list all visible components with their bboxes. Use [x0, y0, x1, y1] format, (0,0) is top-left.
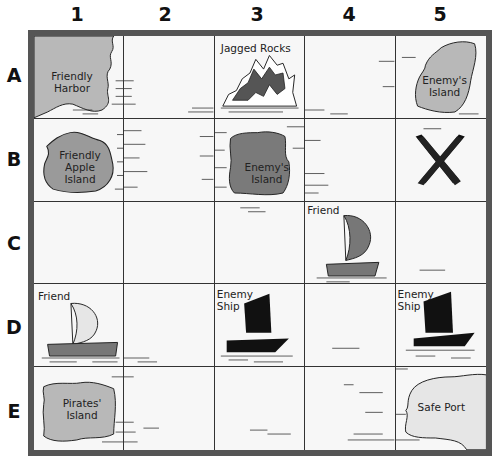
cell-a1[interactable]: Friendly Harbor — [34, 36, 124, 119]
label-line: Island — [410, 86, 480, 98]
enemy-island-icon — [215, 119, 304, 201]
label-line: Ship — [217, 300, 253, 312]
cell-e1[interactable]: Pirates' Island — [34, 367, 124, 450]
water-waves-icon — [215, 202, 304, 284]
cell-c4[interactable]: Friend — [305, 202, 395, 285]
column-label-5: 5 — [425, 3, 455, 25]
label-line: Enemy's — [410, 74, 480, 86]
cell-b5[interactable]: X — [396, 119, 486, 202]
cell-d4[interactable] — [305, 284, 395, 367]
map-grid: Friendly Harbor Jagged Rocks — [34, 36, 486, 450]
label-line: Island — [52, 409, 112, 421]
water-waves-icon — [305, 119, 394, 201]
friend-ship-label: Friend — [307, 204, 339, 216]
label-line: Island — [239, 173, 295, 185]
label-line: Harbor — [40, 82, 104, 94]
cell-c1[interactable] — [34, 202, 124, 285]
cell-c3[interactable] — [215, 202, 305, 285]
row-label-a: A — [4, 64, 24, 86]
jagged-rocks-label: Jagged Rocks — [221, 42, 291, 54]
cell-b1[interactable]: Friendly Apple Island — [34, 119, 124, 202]
cell-b2[interactable] — [124, 119, 214, 202]
water-waves-icon — [305, 36, 394, 118]
water-waves-icon — [124, 36, 213, 118]
enemy-island-label: Enemy's Island — [239, 161, 295, 185]
label-line: Pirates' — [52, 397, 112, 409]
water-waves-icon — [396, 202, 486, 284]
friendly-harbor-label: Friendly Harbor — [40, 70, 104, 94]
column-label-4: 4 — [334, 3, 364, 25]
column-label-3: 3 — [242, 3, 272, 25]
column-label-1: 1 — [62, 3, 92, 25]
apple-island-label: Friendly Apple Island — [52, 149, 108, 185]
cell-a5[interactable]: Enemy's Island — [396, 36, 486, 119]
water-waves-icon — [124, 119, 213, 201]
cell-a3[interactable]: Jagged Rocks — [215, 36, 305, 119]
label-line: Island — [52, 173, 108, 185]
label-line: Apple — [52, 161, 108, 173]
safe-port-label: Safe Port — [418, 401, 465, 413]
label-line: Ship — [398, 300, 434, 312]
cell-d3[interactable]: Enemy Ship — [215, 284, 305, 367]
enemy-ship-label: Enemy Ship — [398, 288, 434, 312]
cell-c5[interactable] — [396, 202, 486, 285]
row-label-b: B — [4, 148, 24, 170]
water-waves-icon — [124, 284, 213, 366]
row-label-c: C — [4, 232, 24, 254]
cell-b3[interactable]: Enemy's Island — [215, 119, 305, 202]
water-waves-icon — [124, 367, 213, 450]
label-line: Enemy — [217, 288, 253, 300]
label-line: Friendly — [52, 149, 108, 161]
cell-d5[interactable]: Enemy Ship — [396, 284, 486, 367]
cell-a4[interactable] — [305, 36, 395, 119]
cell-b4[interactable] — [305, 119, 395, 202]
water-waves-icon — [305, 367, 394, 450]
column-label-2: 2 — [150, 3, 180, 25]
treasure-x-mark-icon — [396, 119, 486, 201]
row-label-e: E — [4, 400, 24, 422]
cell-e5[interactable]: Safe Port — [396, 367, 486, 450]
label-line: Friendly — [40, 70, 104, 82]
cell-d2[interactable] — [124, 284, 214, 367]
cell-e4[interactable] — [305, 367, 395, 450]
pirates-island-label: Pirates' Island — [52, 397, 112, 421]
water-waves-icon — [215, 367, 304, 450]
map-board: Friendly Harbor Jagged Rocks — [28, 30, 492, 456]
label-line: Enemy's — [239, 161, 295, 173]
row-label-d: D — [4, 316, 24, 338]
water-waves-icon — [305, 284, 394, 366]
cell-d1[interactable]: Friend — [34, 284, 124, 367]
cell-e3[interactable] — [215, 367, 305, 450]
enemy-island-label: Enemy's Island — [410, 74, 480, 98]
cell-a2[interactable] — [124, 36, 214, 119]
cell-c2[interactable] — [124, 202, 214, 285]
label-line: Enemy — [398, 288, 434, 300]
friend-ship-label: Friend — [38, 290, 70, 302]
enemy-ship-label: Enemy Ship — [217, 288, 253, 312]
cell-e2[interactable] — [124, 367, 214, 450]
